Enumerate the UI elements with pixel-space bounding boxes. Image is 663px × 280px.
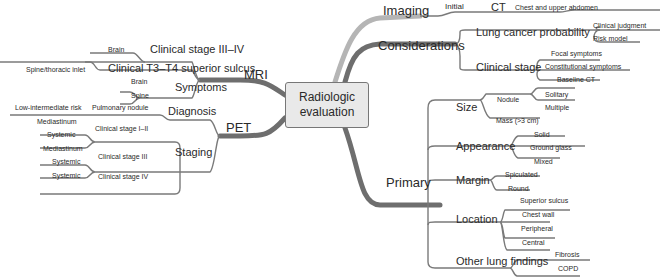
node-clinical-stage-3-4[interactable]: Clinical stage III–IV [150, 44, 244, 55]
node-solitary[interactable]: Solitary [545, 91, 568, 98]
center-title-line1: Radiologic [299, 90, 355, 104]
node-spiculated[interactable]: Spiculated [505, 171, 538, 178]
node-mri-brain-2[interactable]: Brain [131, 78, 147, 85]
node-mixed[interactable]: Mixed [534, 158, 553, 165]
node-diagnosis[interactable]: Diagnosis [168, 106, 216, 117]
node-systemic-1[interactable]: Systemic [47, 131, 75, 138]
node-clinical-stage-4[interactable]: Clinical stage IV [98, 173, 148, 180]
node-mri-brain-1[interactable]: Brain [108, 46, 124, 53]
node-appearance[interactable]: Appearance [456, 141, 515, 152]
node-primary[interactable]: Primary [386, 176, 431, 189]
node-other-lung-findings[interactable]: Other lung findings [456, 256, 548, 267]
node-systemic-3[interactable]: Systemic [52, 172, 80, 179]
node-focal-symptoms[interactable]: Focal symptoms [551, 50, 602, 57]
node-initial[interactable]: Initial [445, 3, 464, 11]
node-clinical-stage-1-2[interactable]: Clinical stage I–II [95, 125, 148, 132]
node-mass[interactable]: Mass (>3 cm) [496, 117, 539, 124]
center-node[interactable]: Radiologicevaluation [285, 82, 369, 128]
node-symptoms[interactable]: Symptoms [175, 82, 227, 93]
node-chest-wall[interactable]: Chest wall [522, 211, 554, 218]
node-staging[interactable]: Staging [175, 147, 212, 158]
node-location[interactable]: Location [456, 214, 498, 225]
node-baseline-ct[interactable]: Baseline CT [557, 76, 595, 83]
node-mediastinum-2[interactable]: Mediastinum [43, 145, 83, 152]
node-size[interactable]: Size [456, 102, 477, 113]
node-clinical-stage[interactable]: Clinical stage [476, 62, 541, 73]
node-central[interactable]: Central [522, 239, 545, 246]
node-ground-glass[interactable]: Ground glass [530, 144, 572, 151]
node-superior-sulcus[interactable]: Superior sulcus [520, 197, 568, 204]
node-imaging[interactable]: Imaging [383, 4, 429, 17]
node-spine-thoracic-inlet[interactable]: Spine/thoracic inlet [26, 66, 85, 73]
node-solid[interactable]: Solid [534, 131, 550, 138]
node-clinical-judgment[interactable]: Clinical judgment [593, 22, 646, 29]
node-considerations[interactable]: Considerations [378, 39, 465, 52]
node-peripheral[interactable]: Peripheral [521, 225, 553, 232]
node-lung-cancer-probability[interactable]: Lung cancer probability [476, 27, 590, 38]
node-systemic-2[interactable]: Systemic [52, 158, 80, 165]
node-ct[interactable]: CT [491, 2, 506, 13]
node-clinical-t3-t4[interactable]: Clinical T3–T4 superior sulcus [108, 63, 255, 74]
center-title-line2: evaluation [300, 105, 355, 119]
node-mediastinum-1[interactable]: Mediastinum [37, 118, 77, 125]
node-constitutional-symptoms[interactable]: Constitutional symptoms [545, 63, 621, 70]
node-pet[interactable]: PET [226, 121, 251, 134]
node-low-intermediate-risk[interactable]: Low-intermediate risk [15, 104, 82, 111]
connector-lines [0, 0, 663, 280]
node-multiple[interactable]: Multiple [545, 104, 569, 111]
node-mri-spine[interactable]: Spine [131, 92, 149, 99]
node-risk-model[interactable]: Risk model [593, 35, 628, 42]
node-ct-detail[interactable]: Chest and upper abdomen [515, 4, 598, 11]
node-copd[interactable]: COPD [558, 265, 578, 272]
node-clinical-stage-3[interactable]: Clinical stage III [98, 153, 147, 160]
node-pulmonary-nodule[interactable]: Pulmonary nodule [92, 104, 148, 111]
node-nodule[interactable]: Nodule [497, 96, 519, 103]
node-round[interactable]: Round [508, 185, 529, 192]
node-fibrosis[interactable]: Fibrosis [555, 251, 580, 258]
node-margin[interactable]: Margin [456, 175, 490, 186]
